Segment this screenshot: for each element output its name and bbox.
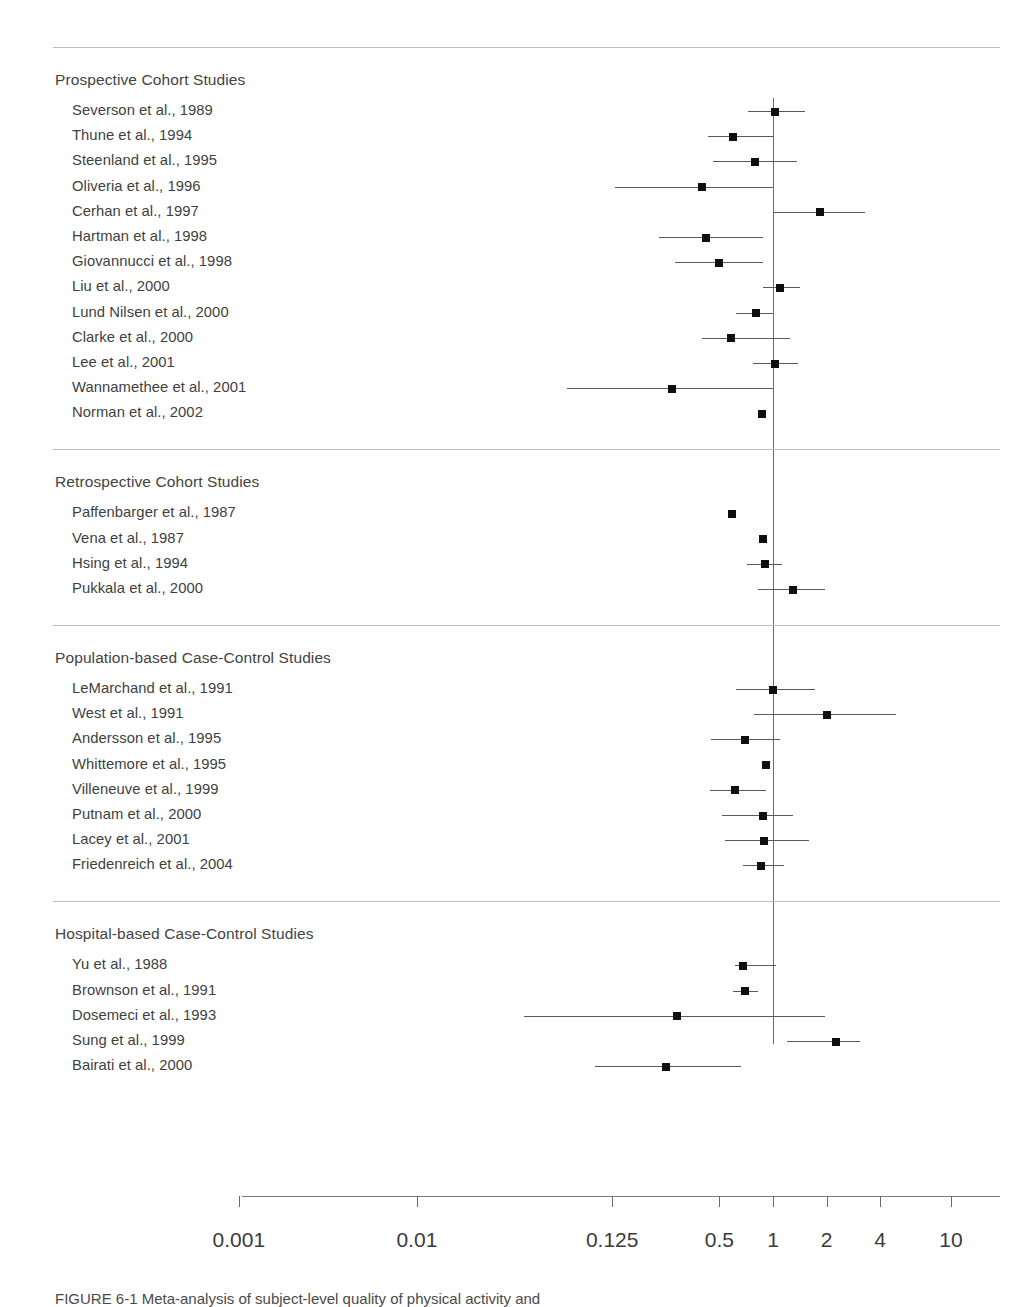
axis-tick [880,1196,881,1207]
axis-tick-label: 2 [821,1228,833,1252]
axis-line [242,1196,1000,1197]
axis-tick [773,1196,774,1207]
figure-caption: FIGURE 6-1 Meta-analysis of subject-leve… [55,1290,540,1307]
axis-tick-label: 0.001 [213,1228,266,1252]
axis-tick [417,1196,418,1207]
axis-tick [612,1196,613,1207]
axis-tick [827,1196,828,1207]
axis-tick-label: 0.01 [396,1228,437,1252]
axis-tick [719,1196,720,1207]
axis-tick-label: 10 [939,1228,962,1252]
axis-tick-label: 0.5 [705,1228,734,1252]
axis-tick-label: 4 [874,1228,886,1252]
axis-tick-label: 0.125 [586,1228,639,1252]
axis-tick [239,1196,240,1207]
axis-tick [951,1196,952,1207]
axis-tick-label: 1 [767,1228,779,1252]
